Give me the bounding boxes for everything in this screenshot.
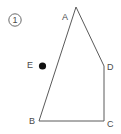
point-e-dot-icon [39,62,46,69]
problem-number-marker: 1 [9,14,21,26]
geometry-figure-canvas: 1 [0,0,121,134]
quadrilateral-outline [39,7,104,121]
vertex-label-b: B [29,117,35,126]
geometry-figure-panel: 1 A B C D E [0,0,121,134]
vertex-label-c: C [107,120,114,129]
vertex-label-d: D [107,63,114,72]
point-label-e: E [27,61,33,70]
problem-number-text: 1 [12,15,17,25]
vertex-label-a: A [62,13,68,22]
